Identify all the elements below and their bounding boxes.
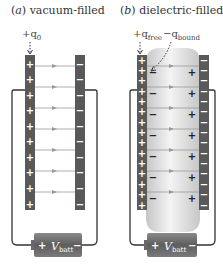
plate-charge-positive: + bbox=[26, 152, 34, 163]
field-arrow-icon bbox=[52, 64, 57, 68]
plate-charge-positive: + bbox=[26, 74, 34, 85]
battery-positive: + bbox=[38, 240, 46, 251]
plate-charge-negative: − bbox=[76, 90, 84, 101]
battery: + Vbatt − bbox=[144, 233, 197, 257]
capacitor-diagram: (a) vacuum-filled +q0 +−+−+−+−+−+−+−+−+−… bbox=[0, 0, 223, 269]
plate-charge-negative: − bbox=[76, 199, 84, 210]
plate-charge-negative: − bbox=[76, 121, 84, 132]
q0-symbol: +q bbox=[22, 28, 37, 39]
plate-charge-positive: + bbox=[138, 158, 146, 169]
plate-charge-negative: − bbox=[200, 179, 208, 190]
field-arrow-icon bbox=[52, 169, 57, 173]
plate-charge-positive: + bbox=[26, 105, 34, 116]
plate-charge-negative: − bbox=[200, 96, 208, 107]
plate-charge-negative: − bbox=[76, 152, 84, 163]
plate-charge-positive: + bbox=[138, 55, 146, 66]
plate-charge-negative: − bbox=[200, 200, 208, 211]
plate-charge-positive: + bbox=[138, 75, 146, 86]
field-arrow-icon bbox=[52, 106, 57, 110]
plate-charge-negative: − bbox=[76, 183, 84, 194]
bound-charge-negative: − bbox=[149, 151, 157, 162]
bound-charge-negative: − bbox=[149, 88, 157, 99]
panel-a-title: (a) vacuum-filled bbox=[11, 4, 105, 17]
plate-charge-negative: − bbox=[76, 59, 84, 70]
plate-charge-negative: − bbox=[200, 75, 208, 86]
plate-charge-negative: − bbox=[200, 106, 208, 117]
plate-charge-positive: + bbox=[138, 86, 146, 97]
plate-charge-positive: + bbox=[26, 167, 34, 178]
battery-negative: − bbox=[188, 240, 196, 251]
bound-charge-negative: − bbox=[149, 67, 157, 78]
plate-charge-positive: + bbox=[138, 117, 146, 128]
bound-charge-positive: + bbox=[188, 67, 196, 78]
plate-charge-positive: + bbox=[26, 136, 34, 147]
plate-charge-negative: − bbox=[76, 105, 84, 116]
plate-charge-positive: + bbox=[138, 200, 146, 211]
plate-charge-positive: + bbox=[26, 183, 34, 194]
bound-charge-positive: + bbox=[188, 193, 196, 204]
plate-charge-positive: + bbox=[138, 106, 146, 117]
plate-charge-positive: + bbox=[138, 127, 146, 138]
bound-charge-positive: + bbox=[188, 151, 196, 162]
plate-charge-negative: − bbox=[200, 148, 208, 159]
bound-charge-negative: − bbox=[149, 109, 157, 120]
panel-dielectric: (b) dielectric-filled +qfree −qbound +−+… bbox=[120, 4, 223, 257]
field-arrow-icon bbox=[52, 85, 57, 89]
bound-charge-positive: + bbox=[188, 109, 196, 120]
plate-charge-negative: − bbox=[200, 127, 208, 138]
plate-charge-negative: − bbox=[200, 65, 208, 76]
bound-charge-positive: + bbox=[188, 88, 196, 99]
bound-charge-negative: − bbox=[149, 172, 157, 183]
plate-charge-negative: − bbox=[200, 189, 208, 200]
field-arrow-icon bbox=[52, 190, 57, 194]
plate-charge-negative: − bbox=[200, 86, 208, 97]
charge-qfree-label: +qfree bbox=[133, 28, 162, 42]
plate-charge-positive: + bbox=[26, 121, 34, 132]
plate-charge-positive: + bbox=[138, 65, 146, 76]
plate-charge-negative: − bbox=[76, 74, 84, 85]
plate-charge-negative: − bbox=[200, 55, 208, 66]
plate-charge-positive: + bbox=[138, 189, 146, 200]
panel-b-title: (b) dielectric-filled bbox=[120, 4, 223, 17]
battery-positive: + bbox=[151, 240, 159, 251]
charge-q0-label: +q0 bbox=[22, 28, 41, 42]
charge-qbound-label: −qbound bbox=[163, 28, 200, 42]
bound-charge-positive: + bbox=[188, 172, 196, 183]
plate-charge-positive: + bbox=[26, 90, 34, 101]
plate-charge-positive: + bbox=[138, 148, 146, 159]
plate-charge-negative: − bbox=[200, 158, 208, 169]
field-arrow-icon bbox=[52, 148, 57, 152]
field-lines bbox=[35, 64, 75, 194]
plate-charge-positive: + bbox=[138, 137, 146, 148]
plate-charge-positive: + bbox=[138, 96, 146, 107]
field-arrow-icon bbox=[52, 127, 57, 131]
bound-charge-positive: + bbox=[188, 130, 196, 141]
plate-charge-positive: + bbox=[26, 199, 34, 210]
plate-charge-positive: + bbox=[26, 59, 34, 70]
bound-charge-negative: − bbox=[149, 193, 157, 204]
plate-charge-negative: − bbox=[76, 136, 84, 147]
plate-charge-negative: − bbox=[200, 137, 208, 148]
plate-charge-negative: − bbox=[200, 117, 208, 128]
panel-vacuum: (a) vacuum-filled +q0 +−+−+−+−+−+−+−+−+−… bbox=[11, 4, 105, 257]
plate-charge-positive: + bbox=[138, 179, 146, 190]
battery-negative: − bbox=[73, 240, 81, 251]
bound-charge-negative: − bbox=[149, 130, 157, 141]
plate-charge-positive: + bbox=[138, 168, 146, 179]
plate-charge-negative: − bbox=[200, 168, 208, 179]
plate-charge-negative: − bbox=[76, 167, 84, 178]
battery: + Vbatt − bbox=[31, 233, 82, 257]
